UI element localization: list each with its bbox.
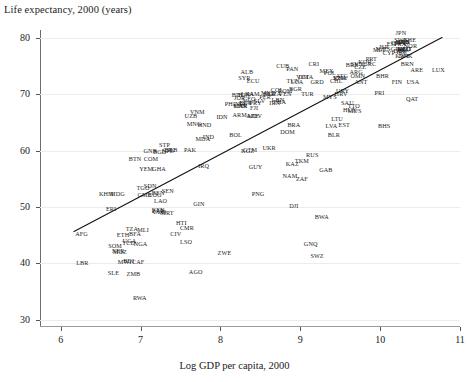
data-point-label: SVN bbox=[351, 61, 364, 67]
data-point-label: BRN bbox=[401, 61, 414, 67]
data-point-label: TUR bbox=[301, 91, 314, 97]
y-tick-label: 60 bbox=[8, 145, 30, 156]
data-point-label: GRD bbox=[310, 79, 323, 85]
data-point-label: KWT bbox=[395, 53, 409, 59]
data-point-label: BRA bbox=[287, 122, 300, 128]
data-point-label: RWA bbox=[133, 295, 147, 301]
data-point-label: MWI bbox=[118, 259, 132, 265]
data-point-label: BHR bbox=[376, 73, 389, 79]
data-point-label: EST bbox=[339, 122, 350, 128]
data-point-label: BHS bbox=[378, 123, 390, 129]
x-tick-mark bbox=[61, 327, 62, 331]
data-point-label: UKR bbox=[262, 145, 275, 151]
data-point-label: TTO bbox=[348, 102, 360, 108]
data-point-label: NZL bbox=[376, 45, 388, 51]
y-tick-mark bbox=[36, 151, 40, 152]
data-point-label: ARE bbox=[411, 67, 424, 73]
data-point-label: GMB bbox=[137, 192, 151, 198]
data-point-label: LUX bbox=[432, 67, 445, 73]
data-point-label: LSO bbox=[180, 239, 192, 245]
x-axis-line bbox=[40, 326, 460, 327]
plot-area: AFGAGOALBANTAREARGARMATGAUSAUTAZEBDIBELB… bbox=[40, 30, 460, 326]
data-point-label: TON bbox=[237, 92, 250, 98]
data-point-label: PAK bbox=[184, 147, 196, 153]
data-point-label: CRI bbox=[309, 61, 320, 67]
data-point-label: SOM bbox=[108, 243, 122, 249]
data-point-label: QAT bbox=[406, 96, 418, 102]
data-point-label: PAN bbox=[286, 66, 298, 72]
data-point-label: YEM bbox=[139, 166, 153, 172]
data-point-label: UGA bbox=[123, 238, 137, 244]
y-tick-mark bbox=[36, 207, 40, 208]
data-point-label: MNG bbox=[187, 120, 202, 126]
data-point-label: VCT bbox=[296, 74, 309, 80]
data-point-label: IDN bbox=[216, 114, 227, 120]
data-point-label: SWZ bbox=[310, 253, 323, 259]
data-point-label: GAB bbox=[319, 167, 332, 173]
data-point-label: BWA bbox=[315, 214, 329, 220]
data-point-label: THA bbox=[273, 99, 286, 105]
data-point-label: ZWE bbox=[218, 250, 232, 256]
data-point-label: ANT bbox=[354, 79, 367, 85]
chart-page: Life expectancy, 2000 (years) AFGAGOALBA… bbox=[0, 0, 469, 382]
data-point-label: DOM bbox=[280, 129, 295, 135]
data-point-label: HTI bbox=[176, 220, 187, 226]
data-point-label: FIN bbox=[392, 79, 402, 85]
data-point-label: TJK bbox=[164, 146, 175, 152]
data-point-label: USA bbox=[407, 79, 420, 85]
data-point-label: KGZ bbox=[241, 148, 254, 154]
data-point-label: AFG bbox=[75, 230, 88, 236]
data-point-label: GUY bbox=[249, 164, 263, 170]
data-point-label: GNB bbox=[144, 148, 157, 154]
data-point-label: GNQ bbox=[304, 241, 318, 247]
data-point-label: LBR bbox=[76, 260, 88, 266]
data-point-label: BOL bbox=[229, 132, 242, 138]
y-tick-label: 70 bbox=[8, 88, 30, 99]
x-tick-label: 8 bbox=[210, 334, 230, 345]
y-tick-label: 50 bbox=[8, 201, 30, 212]
x-tick-mark bbox=[220, 327, 221, 331]
x-tick-label: 10 bbox=[370, 334, 390, 345]
data-point-label: ARM bbox=[232, 111, 246, 117]
x-tick-label: 11 bbox=[450, 334, 469, 345]
data-point-label: SGP bbox=[387, 46, 399, 52]
data-point-label: PRI bbox=[374, 90, 384, 96]
x-tick-mark bbox=[460, 327, 461, 331]
y-tick-mark bbox=[36, 38, 40, 39]
data-point-label: AGO bbox=[189, 269, 203, 275]
data-point-label: ERI bbox=[106, 206, 116, 212]
data-point-label: BLR bbox=[328, 132, 340, 138]
data-point-label: DJI bbox=[289, 203, 298, 209]
y-tick-label: 40 bbox=[8, 257, 30, 268]
data-point-label: OMN bbox=[350, 73, 365, 79]
data-point-label: SWE bbox=[394, 37, 407, 43]
data-point-label: TKM bbox=[295, 158, 309, 164]
data-point-label: VNM bbox=[190, 109, 205, 115]
data-point-label: LVA bbox=[326, 123, 338, 129]
data-point-label: MDA bbox=[196, 136, 211, 142]
data-point-label: SEN bbox=[162, 188, 174, 194]
data-point-label: PNG bbox=[252, 190, 265, 196]
data-point-label: TZA bbox=[126, 226, 138, 232]
data-point-label: BTN bbox=[129, 155, 142, 161]
data-point-label: TGO bbox=[136, 185, 149, 191]
y-tick-label: 30 bbox=[8, 314, 30, 325]
data-point-label: MYS bbox=[323, 93, 337, 99]
data-point-label: ZAF bbox=[296, 176, 308, 182]
x-tick-label: 9 bbox=[290, 334, 310, 345]
data-point-label: SLV bbox=[254, 98, 265, 104]
data-point-label: COM bbox=[144, 156, 158, 162]
y-tick-label: 80 bbox=[8, 32, 30, 43]
data-point-label: SYR bbox=[238, 75, 250, 81]
x-tick-mark bbox=[300, 327, 301, 331]
x-tick-mark bbox=[380, 327, 381, 331]
data-point-label: NOR bbox=[404, 43, 417, 49]
x-tick-mark bbox=[141, 327, 142, 331]
data-point-label: GIN bbox=[193, 201, 204, 207]
data-point-label: PRT bbox=[366, 56, 377, 62]
data-point-label: SVK bbox=[333, 75, 346, 81]
x-axis-label: Log GDP per capita, 2000 bbox=[0, 360, 469, 371]
data-point-label: JPN bbox=[396, 30, 407, 36]
data-point-label: CAF bbox=[132, 259, 144, 265]
y-tick-mark bbox=[36, 263, 40, 264]
